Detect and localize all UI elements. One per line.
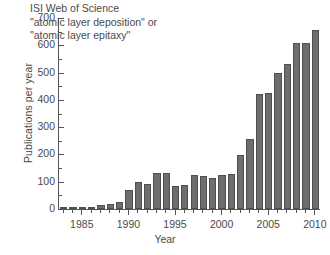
x-tick-minor — [100, 210, 101, 213]
plot-area: 0100200300400500600700 19851990199520002… — [58, 18, 318, 209]
bar — [284, 64, 291, 209]
annotation-line-3: "atomic layer epitaxy" — [30, 29, 157, 43]
y-tick-label: 0 — [49, 202, 55, 214]
x-tick-label: 2000 — [210, 218, 233, 230]
x-tick-minor — [137, 210, 138, 213]
publications-per-year-bar-chart: Publications per year Year 0100200300400… — [0, 0, 330, 255]
y-tick-label: 300 — [37, 120, 55, 132]
x-axis-title: Year — [0, 233, 330, 245]
bar — [144, 184, 151, 209]
x-tick-minor — [249, 210, 250, 213]
bar — [312, 30, 319, 209]
bar — [135, 182, 142, 209]
x-tick-minor — [91, 210, 92, 213]
bar — [237, 155, 244, 209]
x-tick-major: 2010 — [314, 210, 315, 215]
x-tick-minor — [119, 210, 120, 213]
annotation-line-2: "atomic layer deposition" or — [30, 16, 157, 30]
x-tick-minor — [277, 210, 278, 213]
bar — [163, 173, 170, 209]
x-tick-minor — [240, 210, 241, 213]
annotation-line-1: ISI Web of Science — [30, 2, 157, 16]
x-tick-minor — [156, 210, 157, 213]
bar — [265, 93, 272, 210]
x-tick-minor — [286, 210, 287, 213]
x-tick-minor — [212, 210, 213, 213]
y-tick-label: 400 — [37, 93, 55, 105]
x-tick-minor — [296, 210, 297, 213]
x-tick-minor — [202, 210, 203, 213]
x-tick-major: 1985 — [81, 210, 82, 215]
bar — [116, 202, 123, 209]
x-tick-minor — [184, 210, 185, 213]
y-tick-label: 100 — [37, 175, 55, 187]
y-axis-title: Publications per year — [22, 33, 34, 193]
bar — [256, 94, 263, 209]
bar — [60, 207, 67, 209]
bar — [79, 207, 86, 209]
x-tick-minor — [72, 210, 73, 213]
x-tick-major: 2005 — [268, 210, 269, 215]
x-tick-minor — [165, 210, 166, 213]
y-tick-label: 500 — [37, 66, 55, 78]
x-tick-label: 2010 — [303, 218, 326, 230]
x-tick-major: 1990 — [128, 210, 129, 215]
x-tick-minor — [305, 210, 306, 213]
bar — [209, 178, 216, 209]
x-axis-line — [58, 209, 320, 210]
bar — [153, 173, 160, 209]
bar — [181, 185, 188, 209]
bar-series — [59, 18, 320, 209]
x-tick-major: 2000 — [221, 210, 222, 215]
x-tick-minor — [109, 210, 110, 213]
bar — [125, 190, 132, 209]
x-tick-minor — [230, 210, 231, 213]
x-tick-minor — [147, 210, 148, 213]
bar — [69, 207, 76, 209]
x-tick-minor — [63, 210, 64, 213]
bar — [191, 175, 198, 209]
x-tick-label: 2005 — [257, 218, 280, 230]
bar — [88, 207, 95, 209]
x-tick-label: 1995 — [163, 218, 186, 230]
bar — [246, 139, 253, 209]
bar — [228, 174, 235, 209]
bar — [97, 205, 104, 209]
bar — [200, 176, 207, 209]
bar — [274, 73, 281, 209]
x-tick-minor — [258, 210, 259, 213]
x-tick-minor — [193, 210, 194, 213]
bar — [293, 43, 300, 209]
bar — [107, 204, 114, 209]
x-tick-label: 1990 — [117, 218, 140, 230]
x-tick-major: 1995 — [175, 210, 176, 215]
y-tick-label: 200 — [37, 147, 55, 159]
bar — [172, 186, 179, 209]
x-tick-label: 1985 — [70, 218, 93, 230]
chart-annotation: ISI Web of Science "atomic layer deposit… — [30, 2, 157, 43]
bar — [218, 175, 225, 209]
bar — [302, 43, 309, 209]
